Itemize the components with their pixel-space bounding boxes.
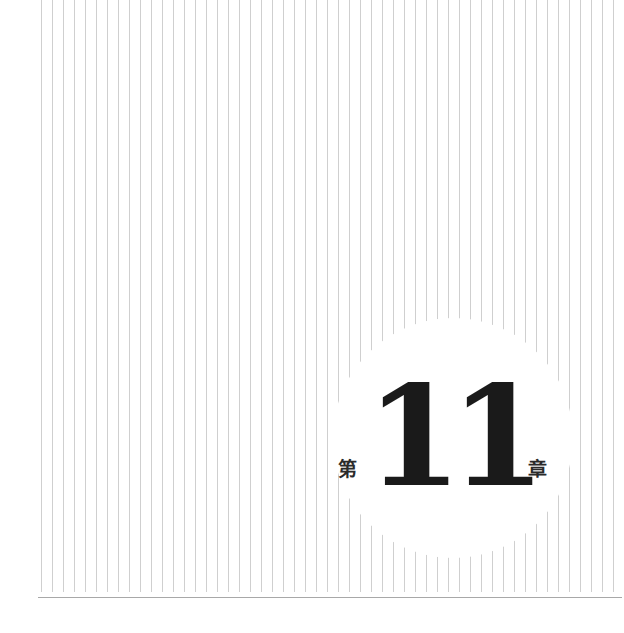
vertical-line bbox=[96, 0, 97, 592]
vertical-line bbox=[195, 0, 196, 592]
vertical-line bbox=[162, 0, 163, 592]
vertical-line bbox=[569, 0, 570, 592]
vertical-line bbox=[206, 0, 207, 592]
bottom-rule-divider bbox=[38, 597, 622, 598]
vertical-line bbox=[591, 0, 592, 592]
vertical-line bbox=[327, 0, 328, 592]
vertical-line bbox=[558, 0, 559, 592]
vertical-line bbox=[239, 0, 240, 592]
vertical-line bbox=[217, 0, 218, 592]
vertical-line bbox=[613, 0, 614, 592]
chapter-number-digit-2: 1 bbox=[450, 368, 546, 506]
vertical-line bbox=[602, 0, 603, 592]
vertical-line bbox=[52, 0, 53, 592]
vertical-line bbox=[261, 0, 262, 592]
vertical-line bbox=[151, 0, 152, 592]
vertical-line bbox=[184, 0, 185, 592]
vertical-line bbox=[338, 0, 339, 592]
vertical-line bbox=[74, 0, 75, 592]
chapter-prefix: 第 bbox=[338, 460, 357, 479]
vertical-line bbox=[41, 0, 42, 592]
vertical-line bbox=[580, 0, 581, 592]
vertical-line bbox=[129, 0, 130, 592]
vertical-line bbox=[85, 0, 86, 592]
chapter-title-page: 第 1 1 章 bbox=[0, 0, 624, 633]
vertical-line bbox=[118, 0, 119, 592]
vertical-line bbox=[272, 0, 273, 592]
vertical-line-pattern bbox=[0, 0, 624, 633]
vertical-line bbox=[63, 0, 64, 592]
vertical-line bbox=[283, 0, 284, 592]
vertical-line bbox=[228, 0, 229, 592]
vertical-line bbox=[140, 0, 141, 592]
vertical-line bbox=[250, 0, 251, 592]
vertical-line bbox=[305, 0, 306, 592]
chapter-number-digit-1: 1 bbox=[366, 368, 462, 506]
vertical-line bbox=[107, 0, 108, 592]
vertical-line bbox=[294, 0, 295, 592]
vertical-line bbox=[349, 0, 350, 592]
vertical-line bbox=[316, 0, 317, 592]
chapter-suffix: 章 bbox=[528, 460, 547, 479]
vertical-line bbox=[173, 0, 174, 592]
